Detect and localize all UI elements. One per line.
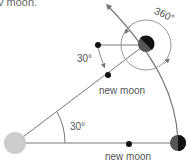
synodic-month-diagram	[0, 0, 191, 166]
moon-bottom	[126, 141, 132, 147]
orbit-arc	[108, 6, 178, 140]
angle-label-top: 30°	[77, 54, 92, 64]
sun	[4, 132, 26, 154]
angle-arc	[57, 112, 65, 143]
angle-label-bottom: 30°	[70, 122, 85, 132]
new-moon-label-bottom: new moon	[105, 152, 151, 162]
moon-top-left	[95, 42, 101, 48]
shift-arrow	[98, 48, 104, 66]
moon-new-top	[105, 72, 111, 78]
new-moon-label-top: new moon	[99, 86, 145, 96]
